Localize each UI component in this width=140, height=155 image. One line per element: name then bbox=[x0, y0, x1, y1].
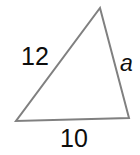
triangle-figure: 12 a 10 bbox=[0, 0, 140, 155]
side-label-bottom: 10 bbox=[60, 126, 88, 151]
side-label-left: 12 bbox=[21, 44, 49, 69]
side-label-right: a bbox=[120, 52, 133, 75]
